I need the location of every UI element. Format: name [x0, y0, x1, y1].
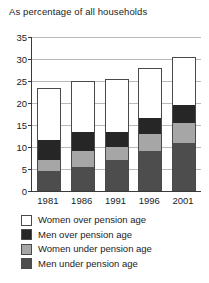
y-axis-tick-label: 0 [6, 187, 27, 196]
chart-legend: Women over pension ageMen over pension a… [21, 213, 206, 271]
legend-item[interactable]: Women under pension age [21, 242, 206, 257]
bar-segment [71, 151, 95, 166]
legend-swatch-icon [21, 215, 32, 226]
legend-item[interactable]: Men under pension age [21, 257, 206, 272]
bar-segment [71, 132, 95, 152]
y-axis-tick-label: 15 [6, 121, 27, 130]
legend-item-label: Women under pension age [38, 244, 152, 254]
bar-segment [172, 57, 196, 105]
y-axis-tick [28, 103, 32, 104]
bar-segment [71, 81, 95, 132]
y-axis-tick-label: 10 [6, 143, 27, 152]
y-axis-tick-label: 5 [6, 165, 27, 174]
legend-item-label: Women over pension age [38, 215, 146, 225]
y-axis-tick [28, 147, 32, 148]
y-axis-tick-label: 25 [6, 77, 27, 86]
plot-area [31, 37, 201, 192]
bar-segment [138, 118, 162, 133]
y-axis-tick-label: 30 [6, 55, 27, 64]
chart-title: As percentage of all households [9, 6, 147, 17]
gridline [32, 37, 201, 38]
y-axis-tick [28, 125, 32, 126]
bar-segment [105, 79, 129, 132]
bar-segment [37, 88, 61, 141]
y-axis-tick [28, 59, 32, 60]
bar-segment [37, 171, 61, 191]
bar-segment [172, 105, 196, 123]
chart-page: As percentage of all households 05101520… [0, 0, 209, 283]
bar-segment [71, 167, 95, 191]
bar-1986[interactable] [71, 81, 95, 191]
bar-segment [138, 134, 162, 152]
bar-1996[interactable] [138, 68, 162, 191]
bar-segment [172, 123, 196, 143]
y-axis-tick-label: 20 [6, 99, 27, 108]
legend-item[interactable]: Women over pension age [21, 213, 206, 228]
bar-segment [37, 140, 61, 160]
y-axis-tick [28, 37, 32, 38]
legend-item-label: Men under pension age [38, 259, 138, 269]
bar-segment [172, 143, 196, 191]
y-axis-tick-label: 35 [6, 33, 27, 42]
x-axis-tick-label: 2001 [163, 195, 203, 206]
bar-2001[interactable] [172, 57, 196, 191]
bar-1981[interactable] [37, 88, 61, 191]
bar-segment [105, 147, 129, 160]
legend-swatch-icon [21, 229, 32, 240]
y-axis-tick [28, 191, 32, 192]
y-axis-tick [28, 169, 32, 170]
bar-segment [138, 68, 162, 119]
legend-swatch-icon [21, 244, 32, 255]
bar-segment [105, 132, 129, 147]
bar-segment [105, 160, 129, 191]
legend-item-label: Men over pension age [38, 230, 132, 240]
bar-segment [37, 160, 61, 171]
bar-segment [138, 151, 162, 191]
y-axis-tick [28, 81, 32, 82]
legend-item[interactable]: Men over pension age [21, 228, 206, 243]
bar-1991[interactable] [105, 79, 129, 191]
legend-swatch-icon [21, 258, 32, 269]
